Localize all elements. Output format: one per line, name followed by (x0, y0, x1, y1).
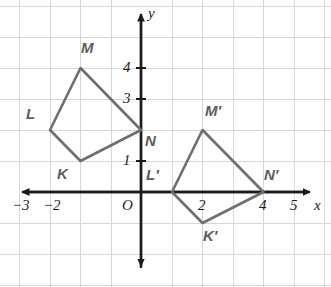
grid-lines (0, 0, 331, 287)
coordinate-plane-figure: 4 3 1 −3 −2 2 4 5 O x y M L K N M′ L′ K′… (0, 0, 331, 287)
vertex-label-n: N (145, 133, 156, 148)
vertex-label-n-prime: N′ (264, 167, 278, 182)
y-tick-label-1: 1 (123, 153, 131, 168)
x-tick-label-4: 4 (259, 198, 267, 213)
vertex-label-m-prime: M′ (205, 103, 221, 118)
x-tick-label-5: 5 (290, 198, 298, 213)
quadrilateral-klmn-prime (172, 130, 264, 223)
x-tick-label-2: 2 (198, 198, 206, 213)
plot-canvas (0, 0, 331, 287)
vertex-label-l: L (26, 106, 35, 121)
y-tick-label-4: 4 (123, 60, 131, 75)
vertex-label-m: M (81, 40, 94, 55)
quadrilateral-klmn (50, 68, 141, 161)
vertex-label-k-prime: K′ (203, 228, 217, 243)
x-tick-label-neg2: −2 (43, 198, 61, 213)
y-tick-label-3: 3 (123, 91, 131, 106)
vertex-label-k: K (57, 166, 68, 181)
x-tick-label-neg3: −3 (12, 198, 30, 213)
vertex-label-l-prime: L′ (146, 167, 159, 182)
origin-label: O (122, 198, 133, 213)
y-axis-label: y (148, 6, 155, 21)
x-axis-label: x (314, 198, 321, 213)
